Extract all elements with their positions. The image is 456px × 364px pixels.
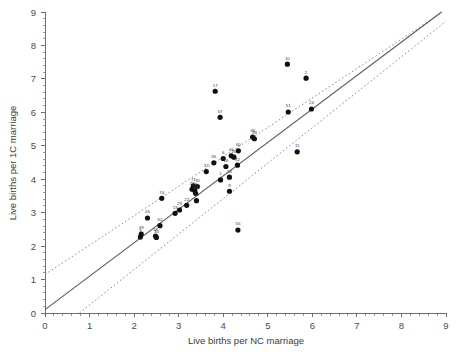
x-tick-label-7: 7 [354, 320, 359, 331]
data-point-marker [138, 234, 143, 239]
x-tick-label-2: 2 [131, 320, 136, 331]
x-tick-label-6: 6 [310, 320, 315, 331]
data-point: 10 [285, 56, 291, 67]
y-tick-label-2: 2 [31, 241, 36, 252]
data-point-label: 1 [219, 171, 222, 176]
data-point-marker [154, 235, 159, 240]
x-tick-label-4: 4 [221, 320, 226, 331]
y-tick-label-9: 9 [31, 7, 36, 18]
data-point: 11 [295, 143, 300, 154]
data-point-marker [177, 207, 182, 212]
y-tick-label-1: 1 [31, 274, 36, 285]
data-point-marker [303, 76, 308, 81]
data-point: 17 [213, 83, 219, 94]
confidence-band-1 [79, 21, 446, 313]
chart-canvas: 1021767512436386011462666532163713497170… [0, 0, 456, 364]
data-point: 60 [236, 142, 242, 153]
data-point: 74 [159, 190, 165, 201]
data-point-label: 29 [177, 201, 182, 206]
regression-fit-line [45, 12, 442, 310]
data-point-marker [218, 115, 223, 120]
x-tick-label-0: 0 [42, 320, 47, 331]
data-point-label: 32 [235, 157, 240, 162]
data-point-label: 9 [228, 183, 231, 188]
data-point-label: 2 [305, 70, 308, 75]
data-point-label: 51 [286, 103, 291, 108]
data-point-label: 34 [227, 169, 232, 174]
data-point-label: 26 [231, 149, 236, 154]
data-point-marker [227, 189, 232, 194]
confidence-band-0 [45, 12, 442, 275]
data-point: 45 [145, 209, 151, 220]
confidence-band-lines [45, 12, 446, 313]
data-point-label: 44 [193, 185, 198, 190]
data-point-label: 45 [145, 209, 150, 214]
data-point-marker [157, 223, 162, 228]
data-point: 37 [204, 163, 210, 174]
data-point-marker [252, 136, 257, 141]
data-point-label: 37 [204, 163, 209, 168]
data-point: 65 [211, 154, 217, 165]
data-point: 67 [218, 109, 224, 120]
y-tick-label-5: 5 [31, 140, 36, 151]
data-point-label: 62 [158, 217, 163, 222]
data-point-marker [235, 163, 240, 168]
data-point-marker [286, 109, 291, 114]
data-point-marker [227, 175, 232, 180]
data-point-marker [213, 89, 218, 94]
x-axis-title: Live births per NC marriage [188, 335, 304, 346]
x-tick-labels: 0123456789 [42, 320, 448, 331]
minor-tick-marks [43, 12, 447, 316]
data-point: 55 [235, 221, 241, 232]
data-point-label: 30 [154, 229, 159, 234]
data-point-label: 21 [194, 192, 199, 197]
data-point-marker [309, 106, 314, 111]
data-point: 16 [223, 158, 229, 169]
x-tick-label-3: 3 [176, 320, 181, 331]
data-point: 32 [235, 157, 241, 168]
data-point-marker [145, 215, 150, 220]
y-tick-label-8: 8 [31, 40, 36, 51]
x-tick-label-8: 8 [399, 320, 404, 331]
data-point-label: 10 [285, 56, 290, 61]
data-point-marker [211, 160, 216, 165]
data-point-label: 74 [159, 190, 164, 195]
x-tick-label-1: 1 [87, 320, 92, 331]
data-point-label: 16 [223, 158, 228, 163]
y-tick-label-3: 3 [31, 207, 36, 218]
data-point-label: 65 [211, 154, 216, 159]
data-point-label: 11 [295, 143, 300, 148]
data-point-label: 60 [236, 142, 241, 147]
data-point-label: 13 [173, 205, 178, 210]
data-point-marker [295, 149, 300, 154]
y-tick-label-6: 6 [31, 107, 36, 118]
data-point-label: 17 [213, 83, 218, 88]
data-point-marker [204, 169, 209, 174]
y-tick-label-7: 7 [31, 73, 36, 84]
data-point-marker [236, 148, 241, 153]
y-tick-label-4: 4 [31, 174, 36, 185]
data-point-label: 38 [252, 130, 257, 135]
data-point-label: 24 [309, 100, 314, 105]
data-point-label: 22 [184, 197, 189, 202]
data-point: 24 [309, 100, 315, 111]
y-axis-title: Live births per 1C marriage [7, 106, 18, 221]
data-point-marker [285, 62, 290, 67]
data-point-marker [159, 196, 164, 201]
data-point-label: 67 [218, 109, 223, 114]
data-point: 51 [286, 103, 292, 114]
scatter-plot-figure: 1021767512436386011462666532163713497170… [0, 0, 456, 364]
data-point-marker [184, 203, 189, 208]
data-point-marker [218, 177, 223, 182]
x-tick-label-5: 5 [265, 320, 270, 331]
y-tick-label-0: 0 [31, 308, 36, 319]
data-point-marker [235, 227, 240, 232]
data-points-layer: 1021767512436386011462666532163713497170… [138, 56, 315, 240]
x-tick-label-9: 9 [443, 320, 448, 331]
data-point-marker [173, 211, 178, 216]
data-point-label: 6 [222, 150, 225, 155]
data-point: 2 [303, 70, 308, 81]
y-tick-labels: 0123456789 [31, 7, 36, 319]
data-point-label: 55 [235, 221, 240, 226]
data-point: 9 [227, 183, 232, 194]
